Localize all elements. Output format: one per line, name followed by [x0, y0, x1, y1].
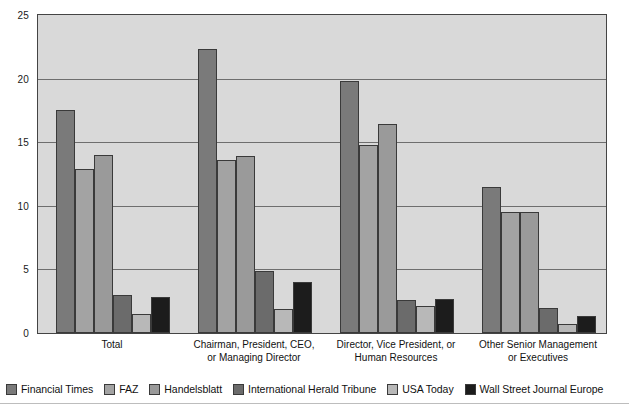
bar: [520, 212, 539, 333]
legend-swatch-icon: [104, 384, 115, 395]
bar: [539, 308, 558, 333]
legend-label: USA Today: [402, 383, 453, 395]
y-axis-tick-label: 15: [17, 137, 29, 148]
legend: Financial TimesFAZHandelsblattInternatio…: [0, 380, 629, 398]
y-axis: 0510152025: [0, 14, 33, 334]
y-axis-tick-label: 20: [17, 73, 29, 84]
bar: [378, 124, 397, 333]
x-axis-category-label: Chairman, President, CEO, or Managing Di…: [179, 338, 329, 364]
bar: [558, 324, 577, 333]
bar: [236, 156, 255, 333]
x-axis-category-label: Total: [37, 338, 187, 351]
legend-swatch-icon: [465, 384, 476, 395]
bar: [217, 160, 236, 333]
x-axis-category-label: Director, Vice President, or Human Resou…: [321, 338, 471, 364]
y-axis-tick-label: 10: [17, 200, 29, 211]
y-axis-tick-label: 5: [23, 264, 29, 275]
bar: [435, 299, 454, 333]
bar: [340, 81, 359, 333]
bar: [359, 145, 378, 333]
bars-layer: [38, 15, 606, 333]
legend-swatch-icon: [149, 384, 160, 395]
legend-swatch-icon: [387, 384, 398, 395]
x-axis-category-labels: TotalChairman, President, CEO, or Managi…: [37, 338, 607, 374]
legend-item[interactable]: Handelsblatt: [149, 383, 222, 395]
bar: [397, 300, 416, 333]
bar: [75, 169, 94, 333]
bar-group: [464, 15, 606, 333]
x-axis-category-label: Other Senior Management or Executives: [463, 338, 613, 364]
bar: [94, 155, 113, 333]
bar: [198, 49, 217, 333]
bar: [293, 282, 312, 333]
legend-item[interactable]: USA Today: [387, 383, 453, 395]
bar: [482, 187, 501, 333]
bar: [577, 316, 596, 333]
legend-divider: [0, 403, 629, 404]
bar: [56, 110, 75, 333]
bar: [113, 295, 132, 333]
y-axis-tick-label: 25: [17, 10, 29, 21]
bar: [501, 212, 520, 333]
y-axis-tick-label: 0: [23, 328, 29, 339]
bar-group: [322, 15, 464, 333]
legend-label: Financial Times: [21, 383, 93, 395]
legend-swatch-icon: [233, 384, 244, 395]
bar-group: [38, 15, 180, 333]
legend-label: International Herald Tribune: [248, 383, 376, 395]
legend-item[interactable]: FAZ: [104, 383, 138, 395]
bar: [274, 309, 293, 333]
bar: [255, 271, 274, 333]
legend-item[interactable]: Wall Street Journal Europe: [465, 383, 604, 395]
bar: [132, 314, 151, 333]
legend-label: Handelsblatt: [164, 383, 222, 395]
legend-label: FAZ: [119, 383, 138, 395]
legend-label: Wall Street Journal Europe: [480, 383, 604, 395]
bar-group: [180, 15, 322, 333]
bar: [151, 297, 170, 333]
bar: [416, 306, 435, 333]
legend-swatch-icon: [6, 384, 17, 395]
legend-item[interactable]: Financial Times: [6, 383, 93, 395]
legend-item[interactable]: International Herald Tribune: [233, 383, 376, 395]
grouped-bar-chart: 0510152025 TotalChairman, President, CEO…: [0, 0, 629, 415]
